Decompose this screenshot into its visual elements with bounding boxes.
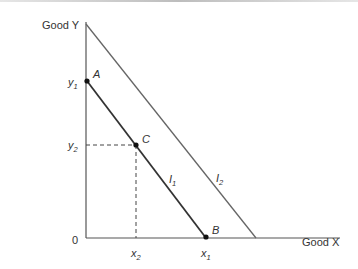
tick-y1: y1 [67,76,78,91]
indifference-curve-i1 [87,81,206,238]
point-c-label: C [142,133,150,145]
y-axis-label: Good Y [42,19,80,31]
point-a-label: A [92,68,100,80]
point-b-label: B [212,224,219,236]
indifference-diagram: Good Y Good X 0 y1 y2 x2 x1 A C B I1 I2 [0,0,358,269]
indifference-curve-i2 [86,24,256,238]
tick-y2: y2 [67,139,79,154]
origin-label: 0 [72,234,78,246]
point-b-marker [203,234,208,239]
curve-label-i1: I1 [169,173,176,188]
x-axis-label: Good X [302,236,340,248]
tick-x1: x1 [200,247,211,262]
curve-label-i2: I2 [216,172,224,187]
tick-x2: x2 [130,247,142,262]
point-c-marker [133,142,138,147]
point-a-marker [84,78,89,83]
